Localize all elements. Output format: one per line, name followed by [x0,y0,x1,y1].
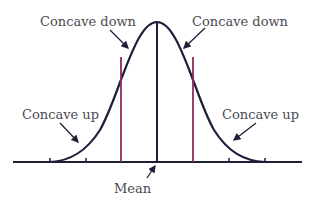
arrow-concave-up-left [60,123,78,142]
label-concave-up-right: Concave up [222,108,299,121]
label-concave-up-left: Concave up [22,108,99,121]
label-concave-down-left: Concave down [40,15,136,28]
label-mean: Mean [114,182,151,195]
label-concave-down-right: Concave down [192,15,288,28]
arrow-concave-down-left [110,30,128,48]
arrow-concave-up-right [234,123,256,140]
normal-curve-diagram [0,0,309,206]
arrow-mean [147,166,155,178]
arrow-concave-down-right [184,28,205,48]
